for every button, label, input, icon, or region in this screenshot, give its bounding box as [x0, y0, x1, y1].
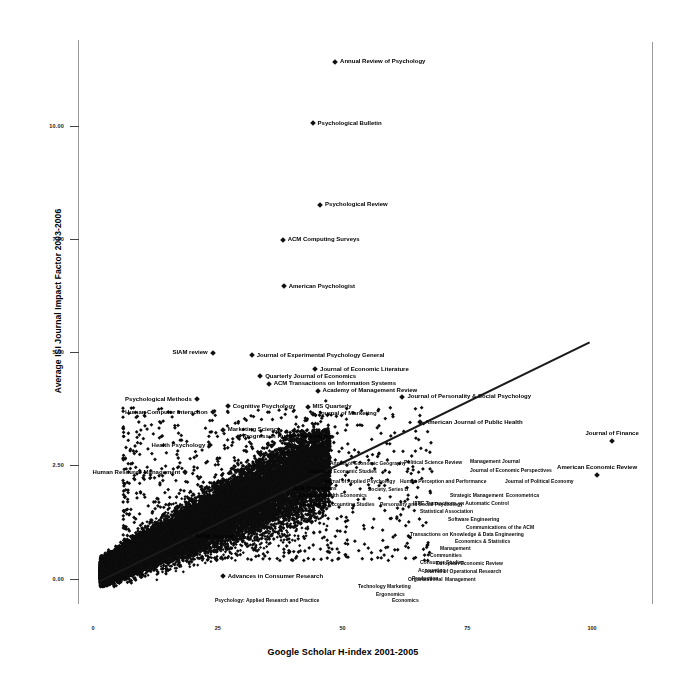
point-label: ACM Computing Surveys [288, 236, 360, 243]
data-point[interactable] [210, 410, 216, 416]
data-point[interactable] [305, 404, 311, 410]
plot-right-border [652, 42, 653, 604]
cluster-point-label: Journal of Operational Research [424, 568, 501, 574]
cluster-point-label: Technology Marketing [358, 583, 411, 589]
point-label: SIAM Journal [195, 533, 233, 540]
cluster-point-label: Management Journal [470, 458, 520, 464]
cluster-point-label: Journal of Health Economics [298, 492, 367, 498]
y-tick-label: 10.00 [24, 123, 64, 129]
x-tick-label: 50 [328, 625, 358, 631]
y-axis-title: Average ISI Journal Impact Factor 2003-2… [53, 151, 63, 451]
data-point[interactable] [310, 120, 316, 126]
trend-line [0, 0, 686, 685]
cluster-point-label: IEEE Transactions on Automatic Control [413, 500, 509, 506]
cluster-point-label: Psychology: Applied Research and Practic… [215, 597, 319, 603]
y-tick-mark [70, 579, 79, 580]
cluster-point-label: Management [445, 576, 476, 582]
x-tick-label: 0 [78, 625, 108, 631]
data-point[interactable] [225, 403, 231, 409]
point-label: Journal of Economic Literature [320, 366, 409, 373]
cluster-point-label: ACM Transactions [293, 485, 337, 491]
y-tick-mark [70, 126, 79, 127]
data-point[interactable] [207, 442, 213, 448]
point-label: Annual Review of Psychology [340, 58, 425, 65]
cluster-point-label: Society, Series B [368, 486, 408, 492]
scatter-point-cloud [0, 0, 686, 685]
point-label: Human Resource Management [93, 469, 181, 476]
cluster-point-label: Economics & Statistics [455, 538, 510, 544]
data-point[interactable] [257, 373, 263, 379]
point-label: Journal of Finance [585, 430, 638, 437]
point-label: Human Computer Interaction [125, 409, 208, 416]
cluster-point-label: Journal of Applied Psychology [322, 478, 395, 484]
point-label: Journal of Experimental Psychology Gener… [257, 352, 385, 359]
x-tick-label: 100 [577, 625, 607, 631]
cluster-point-label: Political Science Review [404, 459, 462, 465]
y-tick-mark [70, 352, 79, 353]
point-label: MIS Quarterly [313, 403, 352, 410]
data-point[interactable] [317, 202, 323, 208]
cluster-point-label: Econometrica [506, 492, 539, 498]
point-label: SIAM review [172, 349, 207, 356]
cluster-point-label: Transactions on Knowledge & Data Enginee… [410, 531, 524, 537]
point-label: Journal of Marketing [318, 410, 377, 417]
cluster-point-label: Statistical Association [420, 508, 473, 514]
data-point[interactable] [417, 419, 423, 425]
data-point[interactable] [332, 59, 338, 65]
point-label: Psychological Methods [125, 396, 192, 403]
cluster-point-label: Economics [392, 597, 419, 603]
point-label: American Economic Review [557, 464, 637, 471]
data-point[interactable] [194, 397, 200, 403]
point-label: Quarterly Journal of Economics [265, 373, 356, 380]
point-label: Journal of Personality & Social Psycholo… [407, 393, 531, 400]
point-label: American Psychologist [289, 283, 355, 290]
data-point[interactable] [187, 534, 193, 540]
data-point[interactable] [400, 394, 406, 400]
point-label: Cognitive Psychology [233, 403, 296, 410]
point-label: Academy of Management Review [323, 387, 418, 394]
data-point[interactable] [310, 411, 316, 417]
y-tick-mark [70, 239, 79, 240]
cluster-point-label: Communications of the ACM [466, 524, 534, 530]
x-axis-title: Google Scholar H-index 2001-2005 [193, 647, 493, 657]
data-point[interactable] [235, 434, 241, 440]
point-label: American Journal of Public Health [425, 419, 523, 426]
point-label: Psychological Bulletin [318, 120, 382, 127]
y-tick-mark [70, 465, 79, 466]
cluster-point-label: European Economic Review [436, 560, 503, 566]
data-point[interactable] [210, 350, 216, 356]
point-label: Marketing Science [228, 426, 281, 433]
data-point[interactable] [249, 352, 255, 358]
y-tick-label: 0.00 [24, 576, 64, 582]
cluster-point-label: Journal of Economic Studies [308, 468, 377, 474]
data-point[interactable] [280, 237, 286, 243]
data-point[interactable] [220, 427, 226, 433]
data-point[interactable] [266, 381, 272, 387]
data-point[interactable] [594, 473, 600, 479]
point-label: Progress in Human Geography [243, 433, 331, 440]
data-point[interactable] [220, 573, 226, 579]
y-axis-line [78, 40, 79, 604]
cluster-point-label: Organizational [408, 576, 443, 582]
y-tick-label: 2.50 [24, 462, 64, 468]
scatter-plot: 0.002.505.007.5010.00 0255075100 Average… [0, 0, 686, 685]
x-tick-label: 25 [203, 625, 233, 631]
cluster-point-label: Annals of Economic Geography [330, 460, 406, 466]
cluster-point-label: Journal of Political Economy [505, 478, 574, 484]
point-label: Psychological Review [325, 201, 388, 208]
point-label: Health Psychology [152, 442, 206, 449]
data-point[interactable] [609, 438, 615, 444]
data-point[interactable] [315, 388, 321, 394]
data-point[interactable] [312, 366, 318, 372]
cluster-point-label: Human Perception and Performance [400, 478, 486, 484]
point-label: Advances in Consumer Research [228, 573, 323, 580]
x-tick-label: 75 [452, 625, 482, 631]
cluster-point-label: Software Engineering [448, 516, 499, 522]
cluster-point-label: Communities [430, 552, 462, 558]
cluster-point-label: Strategic Management [450, 492, 503, 498]
cluster-point-label: Management [440, 545, 471, 551]
cluster-point-label: Journal of Economic Perspectives [470, 467, 552, 473]
cluster-point-label: Review of Accounting Studies [303, 501, 375, 507]
data-point[interactable] [281, 283, 287, 289]
data-point[interactable] [182, 469, 188, 475]
